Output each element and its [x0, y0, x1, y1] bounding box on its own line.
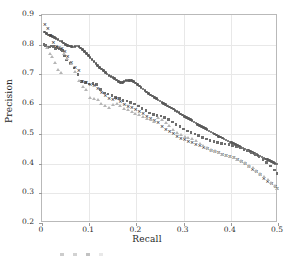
data-point [247, 149, 250, 152]
data-point [60, 48, 63, 51]
data-point [56, 46, 59, 49]
data-point [224, 154, 228, 157]
data-point [151, 95, 154, 98]
data-point: × [205, 146, 209, 150]
data-point: × [118, 99, 122, 103]
x-tick-label: 0 [26, 226, 56, 234]
data-point [121, 81, 124, 84]
y-tick-label: 0.9 [8, 10, 34, 18]
data-point [200, 125, 203, 128]
data-point: × [43, 22, 47, 26]
data-point [132, 80, 135, 83]
x-tick-label: 0.1 [73, 226, 103, 234]
data-point [149, 94, 152, 97]
gridline-vertical [184, 15, 185, 221]
data-point [107, 93, 110, 96]
data-point [175, 123, 178, 126]
data-point [69, 62, 72, 65]
data-point: × [46, 26, 50, 30]
data-point [251, 166, 255, 169]
data-point [269, 165, 272, 168]
data-point [236, 144, 239, 147]
gridline-vertical [89, 15, 90, 221]
data-point [48, 46, 51, 49]
data-point [227, 140, 230, 143]
data-point [217, 135, 220, 138]
data-point [250, 152, 253, 155]
data-point: × [111, 97, 115, 101]
data-point [243, 148, 246, 151]
data-point: × [73, 65, 77, 69]
data-point [153, 96, 156, 99]
data-point [178, 111, 181, 114]
data-point [254, 153, 257, 156]
data-point [268, 159, 271, 162]
data-point [176, 110, 179, 113]
data-point [152, 120, 156, 123]
data-point [259, 155, 262, 158]
data-point: × [201, 145, 205, 149]
data-point [223, 138, 226, 141]
data-point [269, 181, 273, 184]
data-point: × [164, 127, 168, 131]
data-point [172, 108, 175, 111]
data-point [92, 97, 96, 100]
y-tick-label: 0.8 [8, 40, 34, 48]
data-point [51, 35, 54, 38]
data-point [198, 124, 201, 127]
data-point [130, 79, 133, 82]
data-point: × [65, 54, 69, 58]
data-point [261, 156, 264, 159]
data-point [56, 68, 60, 71]
data-point [53, 36, 56, 39]
gridline-horizontal [42, 74, 276, 75]
data-point [130, 110, 134, 113]
data-point: × [130, 105, 134, 109]
data-point: × [186, 139, 190, 143]
data-point [122, 107, 126, 110]
data-point [225, 139, 228, 142]
legend-item [99, 253, 105, 256]
data-point: × [115, 96, 119, 100]
data-point: × [273, 184, 277, 188]
data-point: × [251, 167, 255, 171]
data-point [246, 150, 249, 153]
y-tick-label: 0.3 [8, 188, 34, 196]
data-point [78, 45, 81, 48]
data-point: × [77, 68, 81, 72]
data-point [144, 89, 147, 92]
data-point [270, 160, 273, 163]
data-point [152, 113, 155, 116]
data-point [232, 156, 236, 159]
data-point [70, 45, 73, 48]
data-point [186, 136, 190, 139]
data-point [240, 146, 243, 149]
data-point [258, 172, 262, 175]
data-point: × [213, 149, 217, 153]
data-point: × [269, 181, 273, 185]
data-point [263, 157, 266, 160]
data-point [191, 119, 194, 122]
data-point [54, 47, 57, 50]
data-point: × [81, 79, 85, 83]
data-point [276, 163, 279, 166]
y-tick [39, 74, 42, 75]
data-point [198, 142, 202, 145]
data-point [273, 169, 276, 172]
data-point: × [51, 40, 55, 44]
data-point [63, 55, 66, 58]
data-point [72, 46, 75, 49]
data-point [58, 48, 61, 51]
y-tick-label: 0.4 [8, 159, 34, 167]
data-point [65, 59, 68, 62]
data-point [244, 148, 247, 151]
data-point [170, 107, 173, 110]
data-point [104, 71, 107, 74]
data-point: × [194, 142, 198, 146]
data-point [92, 82, 95, 85]
data-point [235, 146, 238, 149]
data-point [45, 46, 49, 49]
data-point [179, 113, 182, 116]
gridline-vertical [136, 15, 137, 221]
data-point [122, 99, 125, 102]
